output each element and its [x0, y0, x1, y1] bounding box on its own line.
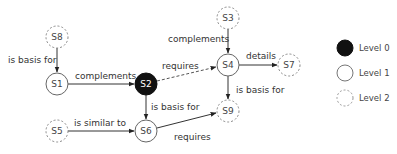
edge-label-s5-s6: is similar to: [74, 118, 127, 128]
svg-text:S3: S3: [222, 13, 233, 23]
legend-dashed-circle-icon: [337, 90, 353, 106]
edge-label-s4-s7: details: [246, 51, 276, 61]
svg-text:S2: S2: [140, 79, 151, 89]
legend-item-level-0: Level 0: [337, 40, 390, 56]
node-s4[interactable]: S4: [217, 54, 239, 76]
svg-text:S7: S7: [283, 60, 294, 70]
legend-item-level-1: Level 1: [337, 65, 390, 81]
svg-text:Level 0: Level 0: [359, 43, 390, 53]
svg-text:S6: S6: [140, 126, 152, 136]
edge-label-s2-s6: is basis for: [151, 102, 200, 112]
legend-item-level-2: Level 2: [337, 90, 390, 106]
node-s3[interactable]: S3: [217, 7, 239, 29]
svg-text:S4: S4: [222, 60, 234, 70]
edge-label-s6-s9: requires: [174, 132, 211, 142]
node-s8[interactable]: S8: [46, 26, 68, 48]
edge-label-s4-s9: is basis for: [236, 85, 285, 95]
edge-label-s8-s1: is basis for: [8, 55, 57, 65]
node-s7[interactable]: S7: [278, 54, 300, 76]
svg-text:S5: S5: [51, 126, 62, 136]
edge-s6-s9: [157, 113, 216, 128]
svg-text:S9: S9: [222, 106, 234, 116]
svg-text:Level 1: Level 1: [359, 68, 390, 78]
concept-diagram: is basis for complements requires is bas…: [0, 0, 397, 154]
node-s9[interactable]: S9: [217, 100, 239, 122]
legend: Level 0 Level 1 Level 2: [337, 40, 390, 106]
legend-solid-circle-icon: [337, 65, 353, 81]
svg-text:S1: S1: [51, 79, 62, 89]
node-s2[interactable]: S2: [135, 73, 157, 95]
svg-text:S8: S8: [51, 32, 63, 42]
node-s1[interactable]: S1: [46, 73, 68, 95]
edge-label-s3-s4: complements: [168, 34, 230, 44]
svg-text:Level 2: Level 2: [359, 93, 390, 103]
edge-label-s1-s2: complements: [75, 71, 137, 81]
edge-label-s2-s4: requires: [162, 61, 199, 71]
node-s6[interactable]: S6: [135, 120, 157, 142]
node-s5[interactable]: S5: [46, 120, 68, 142]
legend-filled-circle-icon: [337, 40, 353, 56]
